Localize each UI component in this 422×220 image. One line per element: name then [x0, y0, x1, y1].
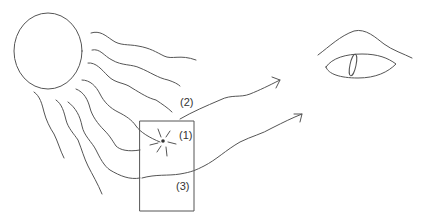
light-ray-4 — [82, 80, 160, 142]
scatter-line — [166, 131, 170, 137]
light-ray-2 — [92, 50, 180, 86]
scatter-line — [166, 147, 167, 156]
light-ray-1 — [91, 32, 196, 60]
light-ray-7 — [56, 100, 102, 194]
reflected-ray-arrow — [180, 80, 280, 119]
eye-pupil — [348, 54, 358, 77]
scatter-line — [157, 146, 161, 152]
light-ray-3 — [88, 63, 172, 112]
transmitted-ray-arrow — [142, 114, 302, 178]
scatter-line — [150, 143, 158, 145]
light-interaction-diagram: (2) (1) (3) — [0, 0, 422, 220]
scatter-line — [168, 142, 176, 144]
light-ray-6 — [68, 102, 140, 179]
eye-outline — [326, 54, 396, 78]
scatter-line — [158, 129, 161, 137]
light-ray-8 — [34, 92, 64, 158]
label-two: (2) — [180, 96, 193, 108]
scatter-point — [161, 139, 165, 143]
sun-circle — [14, 13, 82, 89]
label-one: (1) — [179, 129, 192, 141]
label-three: (3) — [176, 180, 189, 192]
